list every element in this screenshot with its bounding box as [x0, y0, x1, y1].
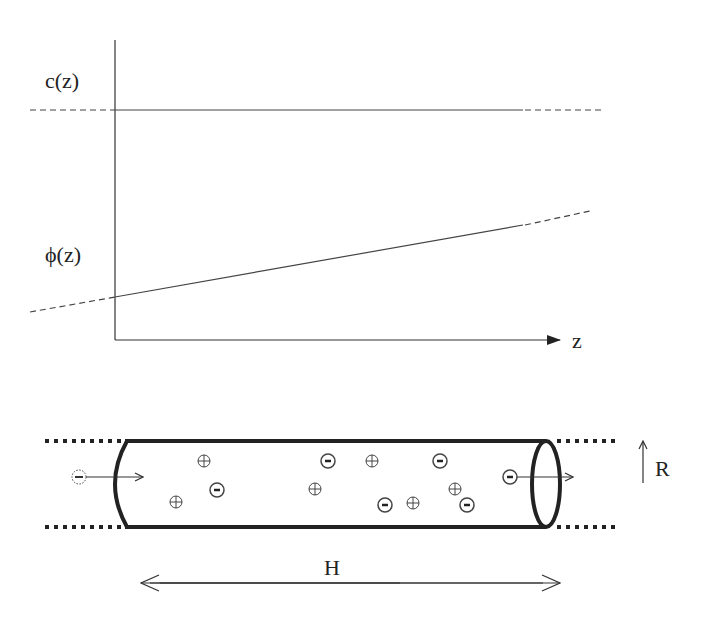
- negative-ion-icon: [433, 454, 447, 468]
- negative-ion-icon: [378, 498, 392, 512]
- ion-group: [170, 454, 517, 512]
- phi-line-dash-right: [525, 211, 590, 225]
- positive-ion-icon: [366, 455, 378, 467]
- phi-label: ϕ(z): [45, 242, 81, 267]
- incoming-ion: [72, 470, 86, 484]
- negative-ion-icon: [503, 470, 517, 484]
- phi-line-dash-left: [30, 297, 115, 312]
- radius-label: R: [655, 456, 670, 481]
- c-label: c(z): [45, 68, 79, 93]
- positive-ion-icon: [449, 483, 461, 495]
- channel-schematic: R H: [45, 441, 670, 583]
- profile-plot: z c(z) ϕ(z): [30, 40, 602, 353]
- z-axis-label: z: [572, 328, 582, 353]
- channel-exit: [532, 441, 560, 527]
- negative-ion-icon: [321, 454, 335, 468]
- negative-ion-icon: [210, 483, 224, 497]
- phi-line: [115, 225, 523, 297]
- positive-ion-icon: [309, 483, 321, 495]
- negative-ion-icon: [460, 498, 474, 512]
- channel-entrance: [115, 441, 127, 527]
- positive-ion-icon: [407, 497, 419, 509]
- positive-ion-icon: [170, 496, 182, 508]
- length-label: H: [324, 555, 340, 580]
- positive-ion-icon: [198, 455, 210, 467]
- diagram-canvas: z c(z) ϕ(z): [0, 0, 705, 626]
